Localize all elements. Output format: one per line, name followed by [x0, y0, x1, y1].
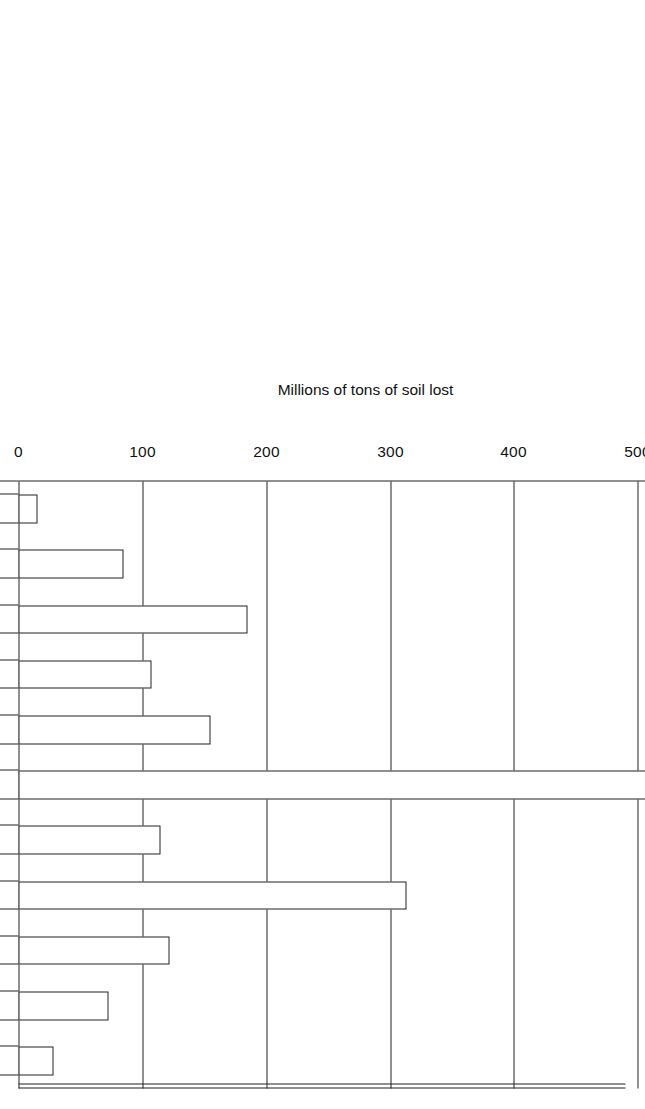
category-divider — [0, 1045, 18, 1046]
category-divider — [0, 880, 18, 881]
value-axis-title: Millions of tons of soil lost — [277, 380, 453, 398]
category-divider — [0, 632, 18, 633]
category-divider — [0, 522, 18, 523]
category-divider — [0, 577, 18, 578]
category-divider — [0, 493, 18, 494]
chart-rotated-stage: 0100200300400500600700 Pacific statesMou… — [0, 0, 645, 1109]
category-divider — [0, 824, 18, 825]
category-divider — [0, 963, 18, 964]
category-divider — [0, 743, 18, 744]
category-divider — [0, 853, 18, 854]
category-divider — [0, 687, 18, 688]
category-divider — [0, 1074, 18, 1075]
category-divider — [0, 604, 18, 605]
category-divider — [0, 548, 18, 549]
chart-figure: 0100200300400500600700 Pacific statesMou… — [0, 0, 645, 1109]
category-divider — [0, 659, 18, 660]
category-axis-labels: Pacific statesMountain statesSouthern pl… — [18, 221, 625, 1088]
category-divider — [0, 908, 18, 909]
category-divider — [0, 935, 18, 936]
value-tick-label: 500 — [624, 442, 645, 460]
category-divider — [0, 769, 18, 770]
category-divider — [0, 714, 18, 715]
category-divider — [0, 798, 18, 799]
category-divider — [0, 1019, 18, 1020]
category-divider — [0, 990, 18, 991]
plot-area: 0100200300400500600700 Pacific statesMou… — [18, 221, 625, 1088]
category-divider — [0, 480, 18, 481]
